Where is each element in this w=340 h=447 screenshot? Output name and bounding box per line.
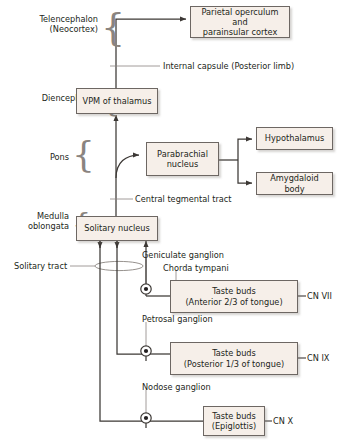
cn-label-vii: CN VII: [307, 291, 340, 301]
box-solitary-nucleus[interactable]: Solitary nucleus: [76, 216, 158, 241]
box-label-vpm-thalamus: VPM of thalamus: [83, 96, 152, 106]
box-taste-buds-anterior[interactable]: Taste buds (Anterior 2/3 of tongue): [170, 280, 298, 313]
box-vpm-thalamus[interactable]: VPM of thalamus: [76, 88, 158, 114]
brace-telencephalon: {: [101, 8, 125, 46]
level-label-pons: Pons: [6, 152, 69, 162]
box-amygdaloid-body[interactable]: Amygdaloid body: [256, 172, 333, 195]
tract-label-internal-capsule: Internal capsule (Posterior limb): [163, 61, 338, 71]
ganglion-label-geniculate: Geniculate ganglion: [142, 250, 272, 260]
box-hypothalamus[interactable]: Hypothalamus: [256, 127, 333, 150]
solitary-tract-ellipse: [95, 261, 143, 270]
tract-label-solitary-tract: Solitary tract: [14, 261, 84, 271]
box-label-hypothalamus: Hypothalamus: [265, 133, 324, 143]
box-label-taste-buds-epiglottis: Taste buds (Epiglottis): [212, 411, 256, 432]
cn-label-ix: CN IX: [307, 353, 340, 363]
box-label-amygdaloid-body: Amygdaloid body: [259, 173, 330, 194]
nodose-ganglion-icon: [141, 413, 151, 423]
ascending-trunk: [116, 19, 186, 216]
tract-label-central-tegmental: Central tegmental tract: [135, 194, 295, 204]
ganglion-label-nodose: Nodose ganglion: [142, 382, 262, 392]
box-taste-buds-posterior[interactable]: Taste buds (Posterior 1/3 of tongue): [170, 342, 298, 375]
level-label-medulla: Medulla oblongata: [6, 211, 69, 232]
branch-to-parabrachial: [116, 155, 139, 178]
ganglion-label-chorda-tympani: Chorda tympani: [163, 263, 283, 273]
box-label-solitary-nucleus: Solitary nucleus: [84, 223, 149, 233]
parabrachial-outputs: [219, 139, 252, 183]
box-parietal-operculum[interactable]: Parietal operculum and parainsular corte…: [190, 6, 290, 38]
box-label-taste-buds-anterior: Taste buds (Anterior 2/3 of tongue): [185, 286, 282, 307]
box-label-parabrachial-nucleus: Parabrachial nucleus: [157, 149, 208, 170]
petrosal-ganglion-icon: [141, 346, 151, 356]
brace-pons: {: [72, 137, 95, 173]
box-label-parietal-operculum: Parietal operculum and parainsular corte…: [193, 7, 287, 38]
cn-label-x: CN X: [273, 416, 307, 426]
box-label-taste-buds-posterior: Taste buds (Posterior 1/3 of tongue): [184, 348, 284, 369]
box-parabrachial-nucleus[interactable]: Parabrachial nucleus: [146, 142, 219, 176]
box-taste-buds-epiglottis[interactable]: Taste buds (Epiglottis): [203, 406, 265, 436]
ganglion-label-petrosal: Petrosal ganglion: [142, 314, 262, 324]
level-label-telencephalon: Telencephalon (Neocortex): [6, 14, 98, 35]
geniculate-ganglion-icon: [141, 284, 151, 294]
